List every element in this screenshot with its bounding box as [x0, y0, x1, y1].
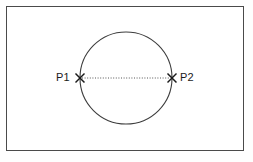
point-label-p2: P2: [180, 72, 194, 83]
diagram-graphics: [0, 0, 253, 162]
point-label-p1: P1: [56, 72, 70, 83]
diagram-canvas: P1 P2: [0, 0, 253, 162]
